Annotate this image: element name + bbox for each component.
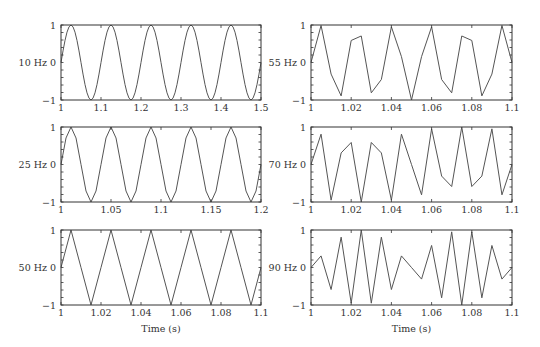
x-tick-label: 1.1 xyxy=(504,204,519,215)
y-axis-label: 90 Hz xyxy=(269,262,297,273)
x-tick-label: 1.1 xyxy=(253,307,268,318)
y-axis-label: 55 Hz xyxy=(269,57,297,68)
waveform-line xyxy=(311,230,512,305)
y-axis-label: 10 Hz xyxy=(19,57,47,68)
y-tick-label: 1 xyxy=(300,225,306,236)
x-tick-label: 1.04 xyxy=(381,102,402,113)
x-tick-label: 1.06 xyxy=(421,307,442,318)
x-tick-label: 1.02 xyxy=(341,102,362,113)
x-tick-label: 1.04 xyxy=(130,307,151,318)
y-axis-label: 50 Hz xyxy=(19,262,47,273)
x-axis-label: Time (s) xyxy=(392,323,431,334)
x-tick-label: 1.02 xyxy=(90,307,111,318)
waveform-line xyxy=(311,25,512,100)
x-tick-label: 1 xyxy=(308,204,314,215)
y-tick-label: 1 xyxy=(50,225,56,236)
y-axis-label: 25 Hz xyxy=(19,159,47,170)
x-tick-label: 1.1 xyxy=(93,102,108,113)
x-tick-label: 1.02 xyxy=(341,307,362,318)
y-tick-label: −1 xyxy=(42,95,56,106)
x-tick-label: 1 xyxy=(308,307,314,318)
y-tick-label: −1 xyxy=(292,95,306,106)
waveform-line xyxy=(61,230,261,305)
x-tick-label: 1.1 xyxy=(504,102,519,113)
y-tick-label: −1 xyxy=(292,300,306,311)
y-tick-label: −1 xyxy=(292,197,306,208)
x-tick-label: 1.02 xyxy=(341,204,362,215)
x-tick-label: 1.2 xyxy=(133,102,148,113)
x-tick-label: 1.08 xyxy=(461,307,482,318)
x-tick-label: 1.08 xyxy=(461,102,482,113)
x-tick-label: 1 xyxy=(58,102,64,113)
x-tick-label: 1.1 xyxy=(153,204,168,215)
x-tick-label: 1.2 xyxy=(253,204,268,215)
x-tick-label: 1.06 xyxy=(421,102,442,113)
x-tick-label: 1.05 xyxy=(100,204,121,215)
x-tick-label: 1.4 xyxy=(213,102,228,113)
y-tick-label: 1 xyxy=(300,20,306,31)
x-tick-label: 1.3 xyxy=(173,102,188,113)
x-tick-label: 1.04 xyxy=(381,307,402,318)
figure: 11.11.21.31.41.5−10110 Hz11.051.11.151.2… xyxy=(0,0,540,347)
y-tick-label: 0 xyxy=(50,57,56,68)
x-tick-label: 1 xyxy=(58,307,64,318)
x-tick-label: 1.5 xyxy=(253,102,268,113)
y-tick-label: 1 xyxy=(50,122,56,133)
y-tick-label: 0 xyxy=(300,262,306,273)
x-tick-label: 1.1 xyxy=(504,307,519,318)
y-tick-label: 1 xyxy=(300,122,306,133)
y-tick-label: −1 xyxy=(42,197,56,208)
x-tick-label: 1.15 xyxy=(200,204,221,215)
y-tick-label: 1 xyxy=(50,20,56,31)
waveform-line xyxy=(61,127,261,202)
y-tick-label: 0 xyxy=(300,159,306,170)
waveform-line xyxy=(61,25,261,100)
y-tick-label: 0 xyxy=(50,262,56,273)
x-tick-label: 1 xyxy=(308,102,314,113)
y-axis-label: 70 Hz xyxy=(269,159,297,170)
x-tick-label: 1.08 xyxy=(461,204,482,215)
axes-frame xyxy=(311,25,512,100)
x-axis-label: Time (s) xyxy=(141,323,180,334)
x-tick-label: 1.06 xyxy=(170,307,191,318)
y-tick-label: −1 xyxy=(42,300,56,311)
x-tick-label: 1.06 xyxy=(421,204,442,215)
y-tick-label: 0 xyxy=(300,57,306,68)
x-tick-label: 1.04 xyxy=(381,204,402,215)
y-tick-label: 0 xyxy=(50,159,56,170)
x-tick-label: 1 xyxy=(58,204,64,215)
x-tick-label: 1.08 xyxy=(210,307,231,318)
waveform-line xyxy=(311,127,512,202)
